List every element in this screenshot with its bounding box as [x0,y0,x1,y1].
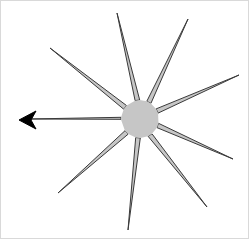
center-hub [122,101,158,137]
star-burst-diagram: Nine-spoke star burst with arrow marker [1,1,249,239]
center-hub-group [122,101,158,137]
figure-frame: Nine-spoke star burst with arrow marker … [0,0,249,239]
